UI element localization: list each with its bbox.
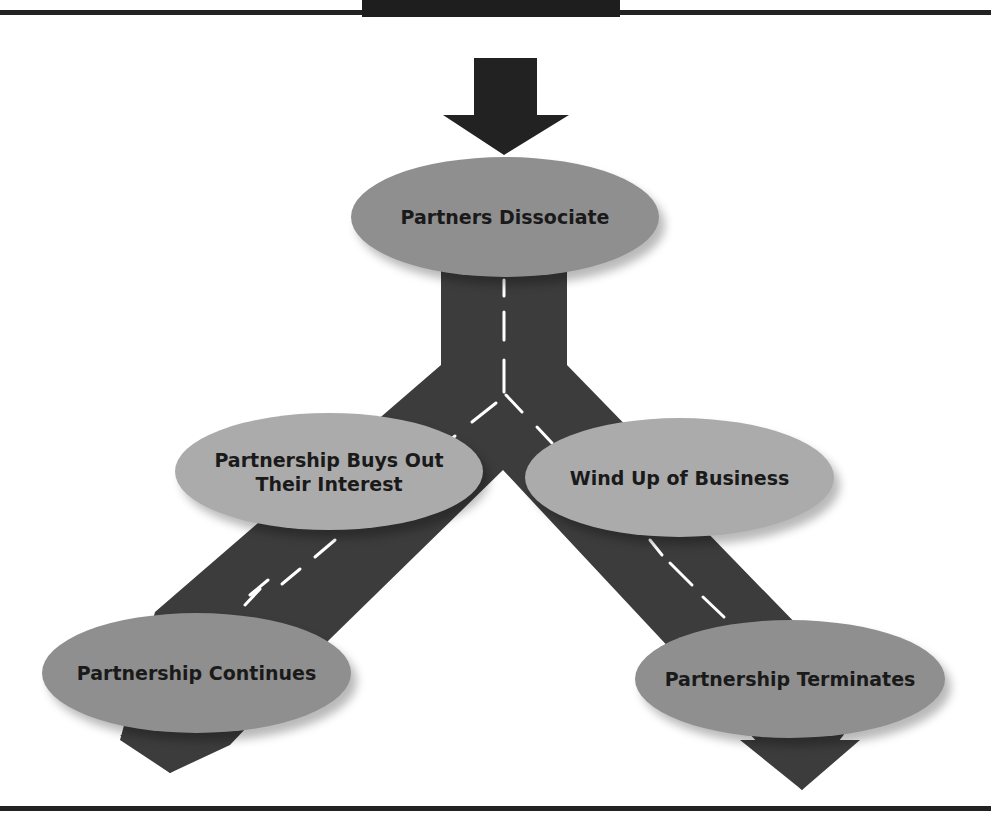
diagram-canvas: Partners Dissociate Partnership Buys Out… [0,0,991,832]
down-arrow-icon [443,58,569,155]
node-label: Partnership Continues [77,661,316,685]
node-partnership-terminates: Partnership Terminates [635,620,945,738]
node-partnership-buys-out: Partnership Buys Out Their Interest [175,413,483,530]
node-label-line1: Partnership Buys Out [214,448,443,472]
node-label: Partnership Terminates [665,667,916,691]
right-arrow-tip-icon [740,740,860,790]
node-label: Wind Up of Business [570,466,790,490]
node-label: Partners Dissociate [401,205,610,229]
left-arrow-tip-icon [120,735,230,773]
node-partnership-continues: Partnership Continues [42,613,351,733]
node-wind-up-of-business: Wind Up of Business [525,418,834,537]
bottom-border-rule [0,806,991,811]
node-partners-dissociate: Partners Dissociate [351,157,659,277]
node-label-line2: Their Interest [255,472,402,496]
